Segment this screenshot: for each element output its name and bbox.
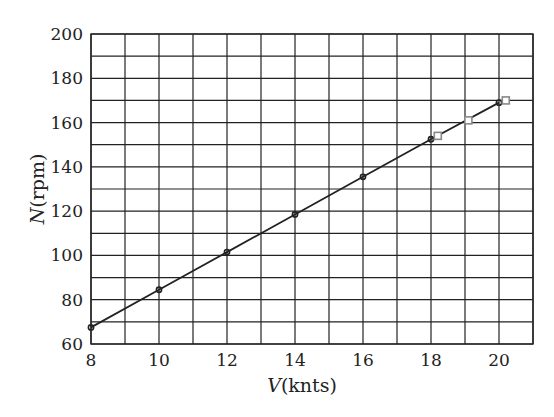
x-tick-label: 18 (420, 350, 442, 370)
chart: 6080100120140160180200 8101214161820 V(k… (0, 0, 554, 417)
y-tick-label: 60 (61, 334, 83, 354)
x-axis-label: V(knts) (267, 374, 337, 396)
x-tick-label: 14 (284, 350, 306, 370)
y-tick-label: 180 (51, 68, 83, 88)
y-axis-unit: (rpm) (26, 154, 48, 208)
x-tick-label: 12 (216, 350, 238, 370)
grid-lines (91, 34, 533, 344)
y-axis-variable: N (26, 206, 48, 225)
y-tick-label: 160 (51, 113, 83, 133)
x-tick-label: 8 (86, 350, 97, 370)
y-tick-label: 200 (51, 24, 83, 44)
square-marker (465, 117, 472, 124)
x-tick-label: 10 (148, 350, 170, 370)
y-tick-label: 100 (51, 245, 83, 265)
y-tick-label: 120 (51, 201, 83, 221)
y-tick-label: 80 (61, 290, 83, 310)
x-tick-label: 16 (352, 350, 374, 370)
x-axis-tick-labels: 8101214161820 (86, 350, 510, 370)
x-tick-label: 20 (488, 350, 510, 370)
y-axis-label: N(rpm) (26, 154, 48, 226)
y-tick-label: 140 (51, 157, 83, 177)
x-axis-unit: (knts) (281, 374, 337, 396)
y-axis-tick-labels: 6080100120140160180200 (51, 24, 83, 354)
square-marker (434, 132, 441, 139)
square-marker (502, 97, 509, 104)
